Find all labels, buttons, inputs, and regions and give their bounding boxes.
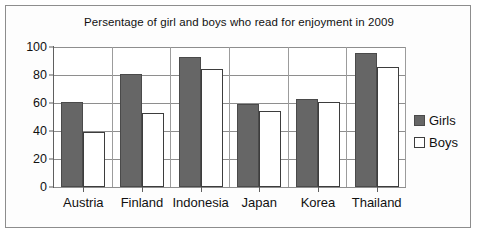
- x-axis-label-indonesia: Indonesia: [172, 195, 228, 210]
- bar-girls-thailand[interactable]: [355, 53, 377, 187]
- bar-girls-korea[interactable]: [296, 99, 318, 187]
- bar-boys-korea[interactable]: [318, 102, 340, 187]
- bar-group: Thailand: [347, 47, 406, 187]
- bar-girls-indonesia[interactable]: [179, 57, 201, 187]
- x-axis-label-thailand: Thailand: [352, 195, 402, 210]
- x-axis-label-austria: Austria: [63, 195, 103, 210]
- bar-girls-austria[interactable]: [61, 102, 83, 187]
- gridline-0: [54, 187, 406, 188]
- category-separator: [405, 47, 406, 187]
- bar-boys-indonesia[interactable]: [201, 69, 223, 187]
- legend-label-boys: Boys: [429, 135, 458, 150]
- x-tick-mark: [259, 187, 260, 192]
- chart-page-frame: Persentage of girl and boys who read for…: [5, 5, 471, 228]
- bar-boys-thailand[interactable]: [377, 67, 399, 187]
- chart-legend: GirlsBoys: [414, 109, 472, 153]
- legend-item-girls[interactable]: Girls: [414, 109, 472, 131]
- bar-group: Austria: [54, 47, 113, 187]
- x-axis-label-korea: Korea: [301, 195, 336, 210]
- legend-swatch-boys: [414, 137, 425, 148]
- y-tick-label: 20: [33, 152, 47, 166]
- legend-label-girls: Girls: [429, 113, 456, 128]
- legend-item-boys[interactable]: Boys: [414, 131, 472, 153]
- x-tick-mark: [83, 187, 84, 192]
- x-axis-label-finland: Finland: [121, 195, 164, 210]
- y-tick-label: 100: [26, 40, 47, 54]
- x-axis-label-japan: Japan: [242, 195, 277, 210]
- bar-group: Korea: [289, 47, 348, 187]
- x-tick-mark: [377, 187, 378, 192]
- y-tick-label: 0: [40, 180, 47, 194]
- legend-swatch-girls: [414, 115, 425, 126]
- plot-area: 020406080100 AustriaFinlandIndonesiaJapa…: [54, 47, 406, 187]
- x-tick-mark: [201, 187, 202, 192]
- bar-group: Japan: [230, 47, 289, 187]
- x-tick-mark: [318, 187, 319, 192]
- bar-boys-austria[interactable]: [83, 132, 105, 187]
- bar-group: Finland: [113, 47, 172, 187]
- bar-girls-japan[interactable]: [237, 104, 259, 187]
- chart-title: Persentage of girl and boys who read for…: [6, 16, 472, 28]
- y-tick-label: 40: [33, 124, 47, 138]
- y-tick-label: 60: [33, 96, 47, 110]
- bar-boys-finland[interactable]: [142, 113, 164, 187]
- y-tick-label: 80: [33, 68, 47, 82]
- bar-group: Indonesia: [171, 47, 230, 187]
- bar-chart: Persentage of girl and boys who read for…: [6, 6, 472, 229]
- bar-boys-japan[interactable]: [259, 111, 281, 187]
- bar-girls-finland[interactable]: [120, 74, 142, 187]
- x-tick-mark: [142, 187, 143, 192]
